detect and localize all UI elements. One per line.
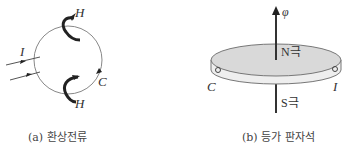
flux-label: φ [282, 5, 289, 20]
south-pole-label: S극 [281, 93, 299, 111]
caption-b: (b) 등가 판자석 [242, 128, 315, 144]
loop-label: C [98, 74, 107, 90]
field-top-label: H [75, 5, 84, 21]
disk-loop-label: C [207, 79, 216, 95]
magnetic-disk-diagram [211, 6, 341, 113]
current-label: I [20, 44, 24, 60]
lead-wire-out [10, 72, 40, 80]
field-curl-top-icon [63, 18, 80, 40]
caption-a: (a) 환상전류 [28, 128, 87, 144]
flux-arrow-icon [272, 6, 280, 15]
north-pole-label: N극 [281, 42, 301, 60]
field-bottom-label: H [75, 96, 84, 112]
current-arrow-icon [26, 73, 32, 77]
disk-current-label: I [333, 79, 337, 95]
